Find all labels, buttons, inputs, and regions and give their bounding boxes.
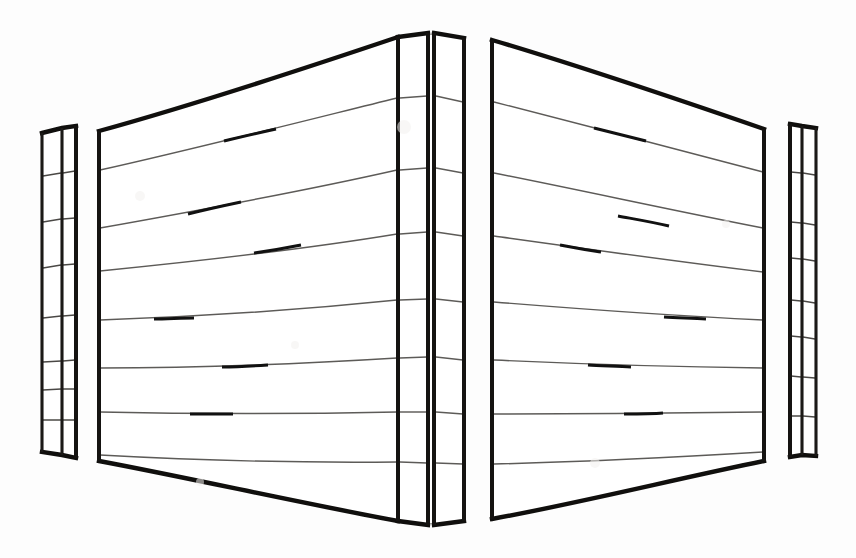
paper-speck <box>397 120 411 134</box>
rail-line <box>400 462 427 463</box>
tick-line <box>791 222 801 223</box>
paper-speck <box>291 341 299 349</box>
panel-face-far-left-return <box>42 128 62 455</box>
tick-line <box>791 172 801 173</box>
rail-line <box>436 463 463 464</box>
tick-line <box>63 264 75 265</box>
rail-accent-segment <box>588 365 631 367</box>
rail-accent-segment <box>624 413 663 414</box>
tick-line <box>791 300 801 301</box>
paper-speck <box>590 458 600 468</box>
paper-speck <box>135 191 145 201</box>
tick-line <box>791 336 801 337</box>
rail-accent-segment <box>664 317 706 319</box>
rail-accent-segment <box>154 318 194 319</box>
bottom-edge-right-outer <box>790 455 816 457</box>
tick-line <box>803 416 815 417</box>
tick-line <box>43 389 61 390</box>
rail-line <box>400 357 427 358</box>
tick-line <box>791 376 801 377</box>
paper-speck <box>722 220 730 228</box>
panel-face-left-return <box>62 126 76 458</box>
drawing-canvas <box>0 0 856 558</box>
tick-line <box>63 315 75 316</box>
tick-line <box>43 361 61 362</box>
panel-face-ridge-right <box>434 33 464 525</box>
tick-line <box>791 258 801 259</box>
tick-line <box>63 360 75 361</box>
panel-structure-drawing <box>0 0 856 558</box>
paper-speck <box>196 478 204 486</box>
panel-face-ridge-left <box>398 33 428 525</box>
tick-line <box>803 377 815 378</box>
tick-line <box>63 218 75 219</box>
rail-line <box>400 299 427 300</box>
